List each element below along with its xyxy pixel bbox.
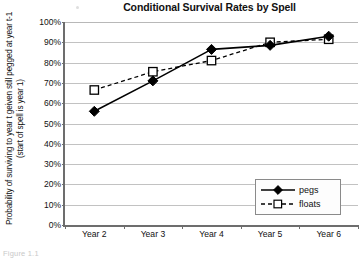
y-tick-label: 50% — [44, 119, 61, 129]
legend-marker-pegs — [260, 184, 296, 196]
y-tick-label: 100% — [39, 17, 61, 27]
legend-item-pegs: pegs — [260, 183, 340, 197]
x-tick-label: Year 3 — [141, 229, 166, 239]
legend-item-floats: floats — [260, 197, 340, 211]
x-tick-mark — [124, 225, 125, 229]
y-tick-label: 40% — [44, 139, 61, 149]
legend-label-floats: floats — [296, 199, 321, 209]
chart-legend: pegs floats — [255, 179, 341, 215]
x-tick-label: Year 4 — [199, 229, 224, 239]
data-point-floats — [90, 86, 98, 94]
data-point-pegs — [148, 76, 158, 86]
x-tick-mark — [299, 225, 300, 229]
y-tick-mark — [62, 22, 65, 23]
chart-title: Conditional Survival Rates by Spell — [60, 1, 359, 13]
data-point-pegs — [89, 106, 99, 116]
x-tick-mark — [182, 225, 183, 229]
y-tick-label: 10% — [44, 200, 61, 210]
legend-label-pegs: pegs — [296, 185, 319, 195]
x-tick-label: Year 5 — [258, 229, 283, 239]
x-tick-mark — [241, 225, 242, 229]
figure-caption: Figure 1.1 — [3, 249, 39, 258]
y-tick-label: 30% — [44, 159, 61, 169]
x-tick-mark — [65, 225, 66, 229]
data-point-floats — [207, 56, 215, 64]
x-tick-label: Year 6 — [316, 229, 341, 239]
figure-root: Conditional Survival Rates by Spell Prob… — [0, 0, 359, 261]
y-tick-label: 80% — [44, 58, 61, 68]
gridline — [65, 22, 358, 23]
x-tick-label: Year 2 — [82, 229, 107, 239]
y-tick-label: 60% — [44, 98, 61, 108]
y-tick-label: 90% — [44, 37, 61, 47]
y-tick-label: 20% — [44, 179, 61, 189]
y-axis-title: Probability of surviving to year t geive… — [5, 11, 26, 226]
y-tick-label: 70% — [44, 78, 61, 88]
data-point-floats — [149, 68, 157, 76]
series-markers-pegs — [89, 31, 333, 116]
data-point-pegs — [207, 44, 217, 54]
y-tick-label: 0% — [49, 220, 61, 230]
legend-marker-floats — [260, 198, 296, 210]
